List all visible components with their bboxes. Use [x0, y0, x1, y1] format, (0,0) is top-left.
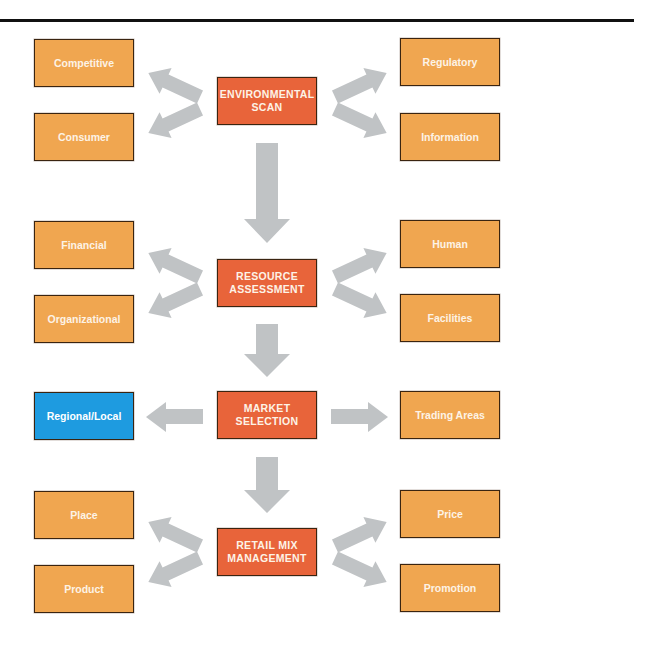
stage-label: ENVIRONMENTAL SCAN [216, 88, 319, 114]
node-label: Financial [57, 239, 111, 252]
arrow-to-competitive-icon [142, 60, 206, 110]
node-label: Facilities [424, 312, 477, 325]
node-label: Place [66, 509, 101, 522]
top-rule [0, 19, 634, 22]
arrow-to-human-icon [329, 240, 393, 290]
arrow-to-information-icon [329, 96, 393, 146]
node-regional-local: Regional/Local [34, 392, 134, 440]
node-label: Promotion [420, 582, 481, 595]
stage-environmental-scan: ENVIRONMENTAL SCAN [217, 77, 317, 125]
arrow-down-3-icon [244, 457, 290, 513]
node-label: Regional/Local [43, 410, 126, 423]
node-promotion: Promotion [400, 564, 500, 612]
node-competitive: Competitive [34, 39, 134, 87]
arrow-to-product-icon [142, 545, 206, 595]
node-label: Consumer [54, 131, 114, 144]
arrow-to-financial-icon [142, 240, 206, 290]
arrow-to-promotion-icon [329, 545, 393, 595]
node-organizational: Organizational [34, 295, 134, 343]
arrow-to-organizational-icon [142, 276, 206, 326]
node-information: Information [400, 113, 500, 161]
node-label: Competitive [50, 57, 118, 70]
stage-resource-assessment: RESOURCE ASSESSMENT [217, 259, 317, 307]
node-consumer: Consumer [34, 113, 134, 161]
arrow-to-place-icon [142, 509, 206, 559]
arrow-down-1-icon [244, 143, 290, 243]
node-place: Place [34, 491, 134, 539]
stage-label: RETAIL MIX MANAGEMENT [218, 539, 316, 565]
node-financial: Financial [34, 221, 134, 269]
node-price: Price [400, 490, 500, 538]
arrow-to-price-icon [329, 509, 393, 559]
node-label: Product [60, 583, 108, 596]
stage-retail-mix-management: RETAIL MIX MANAGEMENT [217, 528, 317, 576]
node-label: Information [417, 131, 483, 144]
node-facilities: Facilities [400, 294, 500, 342]
node-label: Human [428, 238, 472, 251]
stage-market-selection: MARKET SELECTION [217, 391, 317, 439]
arrow-to-consumer-icon [142, 96, 206, 146]
node-regulatory: Regulatory [400, 38, 500, 86]
stage-label: RESOURCE ASSESSMENT [218, 270, 316, 296]
node-label: Trading Areas [411, 409, 489, 422]
arrow-to-regional-local-icon [146, 402, 203, 432]
arrow-to-facilities-icon [329, 276, 393, 326]
node-label: Price [433, 508, 467, 521]
arrow-to-trading-areas-icon [331, 402, 388, 432]
node-label: Organizational [44, 313, 125, 326]
arrow-to-regulatory-icon [329, 60, 393, 110]
stage-label: MARKET SELECTION [218, 402, 316, 428]
node-product: Product [34, 565, 134, 613]
node-trading-areas: Trading Areas [400, 391, 500, 439]
node-label: Regulatory [419, 56, 482, 69]
node-human: Human [400, 220, 500, 268]
arrow-down-2-icon [244, 324, 290, 377]
